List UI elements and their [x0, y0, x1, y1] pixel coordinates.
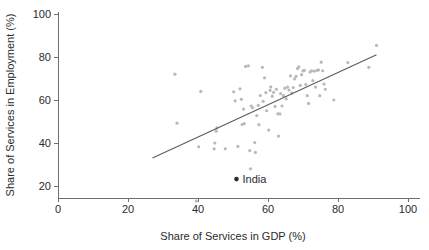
data-point: [283, 87, 286, 90]
data-point: [285, 97, 288, 100]
data-point: [236, 145, 239, 148]
data-point: [314, 86, 317, 89]
regression-line: [153, 55, 377, 158]
data-point: [292, 86, 295, 89]
data-point: [257, 123, 260, 126]
data-point: [287, 89, 290, 92]
data-point: [197, 145, 200, 148]
data-point: [267, 129, 270, 132]
data-point: [286, 86, 289, 89]
data-point: [313, 70, 316, 73]
data-point: [248, 149, 251, 152]
data-point: [279, 92, 282, 95]
data-point: [262, 100, 265, 103]
data-point: [175, 122, 178, 125]
data-point-group: [173, 44, 378, 203]
x-tick-label: 20: [122, 203, 134, 215]
data-point: [303, 69, 306, 72]
data-point: [199, 90, 202, 93]
data-point: [273, 105, 276, 108]
data-point: [269, 89, 272, 92]
data-point: [234, 99, 237, 102]
data-point: [255, 114, 258, 117]
data-point: [215, 130, 218, 133]
data-point: [324, 88, 327, 91]
data-point: [289, 74, 292, 77]
x-tick-label: 80: [332, 203, 344, 215]
data-point: [247, 64, 250, 67]
data-point: [297, 65, 300, 68]
data-point: [259, 94, 262, 97]
x-tick-label: 40: [192, 203, 204, 215]
data-point: [265, 109, 268, 112]
data-point: [306, 94, 309, 97]
data-point: [280, 104, 283, 107]
x-tick-label: 0: [55, 203, 61, 215]
y-axis-title: Share of Services in Employment (%): [4, 14, 16, 197]
highlight-point-india: [234, 177, 239, 182]
data-point: [299, 84, 302, 87]
y-tick-label: 80: [39, 51, 51, 63]
data-point: [317, 68, 320, 71]
data-point: [269, 85, 272, 88]
data-point: [173, 73, 176, 76]
data-point: [195, 199, 198, 202]
x-axis-title: Share of Services in GDP (%): [160, 230, 305, 242]
scatter-chart: 02040608010020406080100Share of Services…: [0, 0, 429, 250]
data-point: [257, 104, 260, 107]
data-point: [244, 65, 247, 68]
y-tick-label: 60: [39, 94, 51, 106]
data-point: [213, 141, 216, 144]
data-point: [322, 82, 325, 85]
plot-area: 02040608010020406080100Share of Services…: [0, 0, 429, 250]
data-point: [272, 91, 275, 94]
data-point: [318, 94, 321, 97]
point-label-india: India: [243, 173, 268, 185]
data-point: [238, 87, 241, 90]
y-tick-label: 20: [39, 180, 51, 192]
data-point: [249, 167, 252, 170]
data-point: [232, 90, 235, 93]
data-point: [277, 135, 280, 138]
data-point: [300, 73, 303, 76]
data-point: [243, 122, 246, 125]
y-tick-label: 100: [33, 8, 51, 20]
data-point: [240, 98, 243, 101]
data-point: [332, 98, 335, 101]
data-point: [271, 95, 274, 98]
data-point: [321, 69, 324, 72]
y-tick-label: 40: [39, 137, 51, 149]
data-point: [254, 151, 257, 154]
x-tick-label: 60: [262, 203, 274, 215]
data-point: [263, 76, 266, 79]
data-point: [213, 147, 216, 150]
data-point: [253, 141, 256, 144]
x-tick-label: 100: [399, 203, 417, 215]
data-point: [367, 66, 370, 69]
data-point: [261, 66, 264, 69]
data-point: [346, 61, 349, 64]
data-point: [264, 91, 267, 94]
data-point: [311, 79, 314, 82]
data-point: [307, 102, 310, 105]
data-point: [375, 44, 378, 47]
data-point: [320, 61, 323, 64]
data-point: [304, 83, 307, 86]
data-point: [251, 106, 254, 109]
data-point: [275, 88, 278, 91]
data-point: [278, 112, 281, 115]
data-point: [310, 69, 313, 72]
data-point: [224, 147, 227, 150]
data-point: [242, 107, 245, 110]
data-point: [294, 75, 297, 78]
